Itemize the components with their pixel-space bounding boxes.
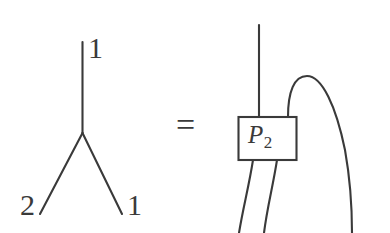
- equals-sign: =: [176, 108, 195, 142]
- tree-bottom-right-leg-label: 1: [127, 190, 142, 220]
- figure-canvas: 1 2 1 = P2: [0, 0, 390, 233]
- projector-box-label-subscript: 2: [264, 133, 273, 152]
- lower-left-strand: [239, 160, 253, 233]
- trivalent-tree-group: [40, 42, 122, 214]
- tree-right-leg-edge: [83, 133, 123, 214]
- tree-left-leg-edge: [40, 133, 83, 214]
- right-arc-strand: [288, 76, 352, 233]
- projector-box-label: P2: [248, 122, 272, 151]
- tree-bottom-left-leg-label: 2: [20, 190, 35, 220]
- tree-top-leg-label: 1: [88, 33, 103, 63]
- projector-box-label-base: P: [248, 121, 263, 148]
- lower-right-strand: [264, 160, 277, 233]
